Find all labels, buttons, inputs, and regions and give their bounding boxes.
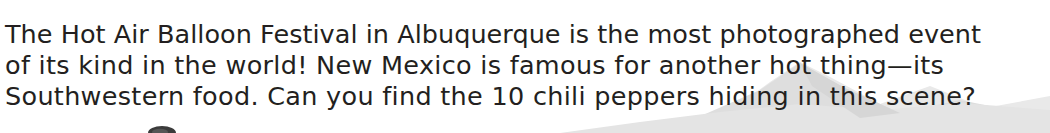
balloon-crown-highlight-icon bbox=[152, 129, 168, 133]
caption-line-3: Southwestern food. Can you find the 10 c… bbox=[5, 81, 1047, 112]
balloon-crown-icon bbox=[148, 126, 176, 133]
illustration-caption-page: The Hot Air Balloon Festival in Albuquer… bbox=[0, 0, 1050, 133]
caption-text-block: The Hot Air Balloon Festival in Albuquer… bbox=[5, 19, 1047, 112]
caption-line-2: of its kind in the world! New Mexico is … bbox=[5, 50, 1047, 81]
caption-line-1: The Hot Air Balloon Festival in Albuquer… bbox=[5, 19, 1047, 50]
